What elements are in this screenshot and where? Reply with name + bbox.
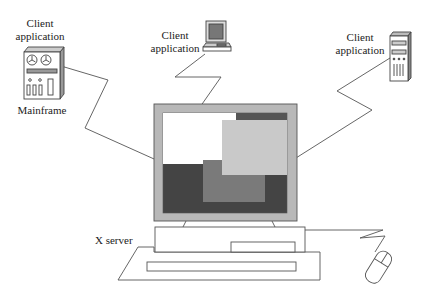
mainframe-label-line2: application (10, 30, 70, 43)
mainframe-icon (24, 47, 64, 99)
mainframe-client-label: Client application (10, 17, 70, 43)
xserver-base (118, 221, 320, 280)
link-tower (288, 58, 390, 163)
workstation-label-line1: Client (145, 29, 205, 42)
window-light (222, 120, 287, 175)
xserver-display (154, 104, 297, 221)
xserver-label: X server (95, 234, 145, 247)
tower-label-line1: Client (330, 31, 390, 44)
tower-icon (390, 32, 411, 81)
tower-client-label: Client application (330, 31, 390, 57)
workstation-label-line2: application (145, 42, 205, 55)
workstation-icon (203, 21, 231, 51)
disk-drive (231, 242, 295, 252)
window-dark-titlebar (236, 113, 287, 120)
keyboard-slot (147, 262, 296, 271)
tower-label-line2: application (330, 44, 390, 57)
mainframe-label-line1: Client (10, 17, 70, 30)
mouse-icon (363, 248, 395, 285)
link-mainframe (61, 66, 163, 163)
mainframe-caption: Mainframe (12, 104, 72, 117)
workstation-client-label: Client application (145, 29, 205, 55)
link-mouse (305, 230, 385, 252)
